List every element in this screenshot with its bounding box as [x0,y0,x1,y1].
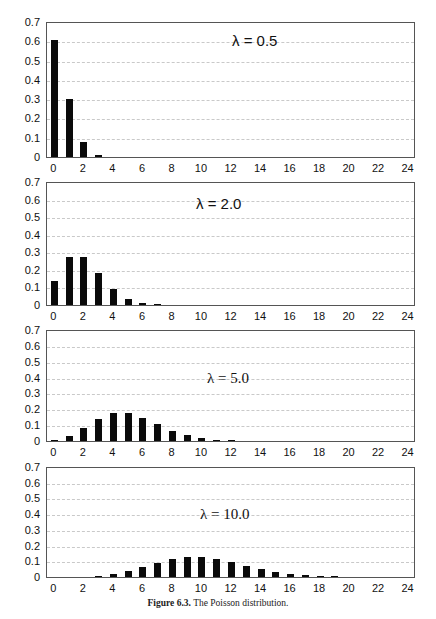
x-tick-label: 14 [250,163,270,174]
y-tick-label: 0.1 [6,556,40,567]
gridline [47,271,414,272]
bar [184,435,191,441]
x-tick-label: 0 [43,311,63,322]
y-tick-label: 0.1 [6,282,40,293]
x-tick-label: 2 [73,447,93,458]
bar [125,299,132,305]
y-tick-label: 0.7 [6,462,40,473]
x-tick-label: 20 [339,447,359,458]
x-tick-label: 0 [43,163,63,174]
gridline [47,253,414,254]
bar [198,557,205,577]
bar [302,575,309,577]
bar [169,431,176,441]
x-tick-label: 14 [250,447,270,458]
x-tick-label: 14 [250,583,270,594]
y-tick-label: 0.7 [6,17,40,28]
x-tick-label: 12 [221,311,241,322]
x-tick-label: 4 [102,163,122,174]
bar [198,438,205,441]
x-tick-label: 0 [43,447,63,458]
x-tick-label: 18 [309,311,329,322]
x-tick-label: 16 [280,163,300,174]
figure-caption-text: The Poisson distribution. [193,598,288,608]
gridline [47,347,414,348]
bar [125,571,132,577]
gridline [47,394,414,395]
gridline [47,139,414,140]
bar [80,428,87,441]
y-tick-label: 0.2 [6,541,40,552]
x-tick-label: 16 [280,311,300,322]
y-tick-label: 0.5 [6,56,40,67]
gridline [47,42,414,43]
bar [139,418,146,441]
y-tick-label: 0.2 [6,265,40,276]
x-tick-label: 8 [161,311,181,322]
y-tick-label: 0.3 [6,94,40,105]
bar [51,40,58,157]
plot-area [46,22,415,158]
bar [154,563,161,577]
y-tick-label: 0.3 [6,247,40,258]
y-tick-label: 0.6 [6,36,40,47]
bar [95,273,102,305]
x-tick-label: 4 [102,311,122,322]
bar [80,142,87,157]
x-tick-label: 16 [280,583,300,594]
bar [66,436,73,441]
x-tick-label: 24 [398,447,418,458]
y-tick-label: 0 [6,436,40,447]
bar [213,559,220,577]
x-tick-label: 22 [368,447,388,458]
bar [95,419,102,441]
x-tick-label: 10 [191,163,211,174]
y-tick-label: 0.7 [6,325,40,336]
y-tick-label: 0.4 [6,373,40,384]
y-tick-label: 0.4 [6,230,40,241]
x-tick-label: 8 [161,447,181,458]
y-tick-label: 0.5 [6,493,40,504]
y-tick-label: 0 [6,300,40,311]
x-tick-label: 8 [161,583,181,594]
x-tick-label: 0 [43,583,63,594]
lambda-label: λ = 5.0 [207,370,249,387]
bar [331,576,338,577]
x-tick-label: 6 [132,163,152,174]
bar [272,572,279,577]
y-tick-label: 0.4 [6,75,40,86]
x-tick-label: 24 [398,583,418,594]
bar [213,440,220,441]
y-tick-label: 0.5 [6,212,40,223]
y-tick-label: 0.3 [6,388,40,399]
bar [125,413,132,441]
lambda-label: λ = 2.0 [196,195,241,212]
y-tick-label: 0.5 [6,357,40,368]
bar [317,576,324,577]
y-tick-label: 0.2 [6,113,40,124]
bar [66,99,73,157]
y-tick-label: 0.2 [6,404,40,415]
x-tick-label: 18 [309,163,329,174]
y-tick-label: 0.7 [6,177,40,188]
y-tick-label: 0.1 [6,133,40,144]
x-tick-label: 16 [280,447,300,458]
bar [258,569,265,577]
gridline [47,81,414,82]
gridline [47,499,414,500]
bar [184,557,191,577]
gridline [47,547,414,548]
x-tick-label: 6 [132,311,152,322]
x-tick-label: 22 [368,163,388,174]
x-tick-label: 10 [191,447,211,458]
x-tick-label: 4 [102,583,122,594]
x-tick-label: 22 [368,583,388,594]
gridline [47,484,414,485]
bar [287,574,294,577]
bar [95,576,102,577]
bar [51,281,58,305]
y-tick-label: 0.3 [6,525,40,536]
bar [95,155,102,157]
x-tick-label: 14 [250,311,270,322]
x-tick-label: 12 [221,163,241,174]
